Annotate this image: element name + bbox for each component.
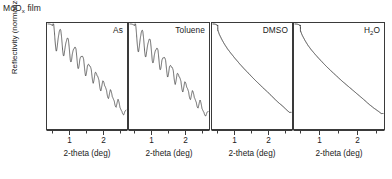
panel-toluene-axis: 1 2 2-theta (deg) — [128, 130, 210, 172]
panel-toluene-plot — [129, 23, 209, 129]
panel-dmso-plot — [212, 23, 292, 129]
panel-dmso: DMSO — [211, 22, 293, 130]
panel-as-axis: 1 2 2-theta (deg) — [46, 130, 128, 172]
panel-toluene-ticks — [128, 130, 210, 137]
y-axis-label: Reflectivity (normalized) — [10, 0, 19, 86]
panel-dmso-tick-2: 2 — [260, 136, 278, 145]
panel-as-label: As — [113, 25, 123, 35]
panel-h2o-xlabel: 2-theta (deg) — [293, 149, 385, 158]
panel-curve-1 — [129, 23, 209, 129]
panel-dmso-axis: 1 2 2-theta (deg) — [211, 130, 293, 172]
xrr-figure: MoOx film Reflectivity (normalized) As 1… — [0, 0, 392, 179]
panel-h2o-label-tail: O — [373, 25, 380, 35]
reflectivity-curve — [295, 24, 383, 114]
panel-h2o-label: H2O — [364, 25, 380, 36]
panel-as-ticks — [46, 130, 128, 137]
panel-toluene-tick-1: 1 — [143, 136, 161, 145]
panel-curve-3 — [294, 23, 384, 129]
panel-as: As — [46, 22, 128, 130]
panel-h2o-tick-1: 1 — [311, 136, 329, 145]
reflectivity-curve — [130, 24, 208, 116]
panel-toluene-label: Toluene — [175, 25, 205, 35]
panel-dmso-tick-1: 1 — [226, 136, 244, 145]
panel-curve-0 — [47, 23, 127, 129]
panel-as-tick-2: 2 — [95, 136, 113, 145]
panel-dmso-ticks — [211, 130, 293, 137]
panel-h2o: H2O — [293, 22, 385, 130]
panel-dmso-label: DMSO — [263, 25, 288, 35]
panel-as-plot — [47, 23, 127, 129]
reflectivity-curve — [48, 24, 126, 115]
panel-toluene: Toluene — [128, 22, 210, 130]
panel-h2o-ticks — [293, 130, 385, 137]
panel-curve-2 — [212, 23, 292, 129]
panel-dmso-xlabel: 2-theta (deg) — [211, 149, 293, 158]
panel-h2o-plot — [294, 23, 384, 129]
panel-h2o-axis: 1 2 2-theta (deg) — [293, 130, 385, 172]
panel-as-xlabel: 2-theta (deg) — [46, 149, 128, 158]
panel-toluene-xlabel: 2-theta (deg) — [128, 149, 210, 158]
panel-h2o-tick-2: 2 — [349, 136, 367, 145]
panel-toluene-tick-2: 2 — [177, 136, 195, 145]
panel-as-tick-1: 1 — [61, 136, 79, 145]
figure-title-tail: film — [25, 3, 41, 13]
reflectivity-curve — [213, 24, 291, 112]
